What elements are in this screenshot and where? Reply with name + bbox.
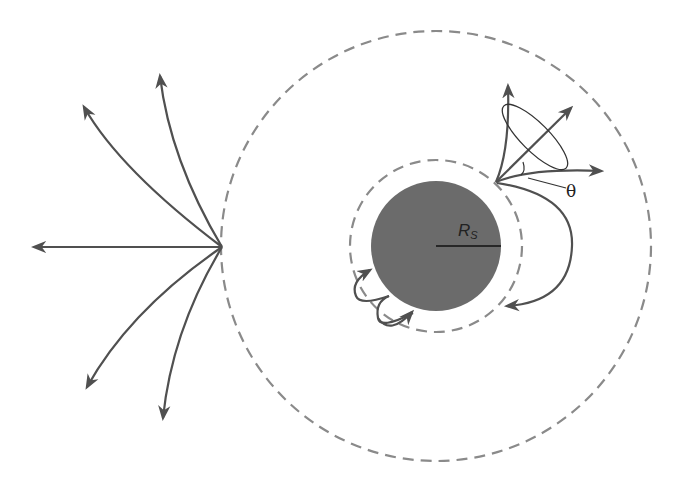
light-cone-diagram (0, 0, 681, 489)
ray-arrow (496, 170, 601, 182)
rs-subscript-text: S (470, 229, 477, 241)
ray-arrow (163, 247, 222, 418)
rs-main-text: R (458, 221, 470, 240)
ray-arrow (497, 183, 572, 306)
ray-arrow (87, 247, 222, 387)
loop-arrow (378, 312, 412, 326)
theta-leader-line (528, 178, 566, 188)
theta-arc (521, 162, 524, 175)
theta-label: θ (566, 181, 576, 201)
right-emitter-rays (496, 86, 601, 306)
ray-arrow (84, 107, 222, 247)
schwarzschild-radius-label: RS (458, 221, 478, 241)
left-emitter-rays (34, 76, 222, 418)
ray-arrow (496, 86, 508, 182)
